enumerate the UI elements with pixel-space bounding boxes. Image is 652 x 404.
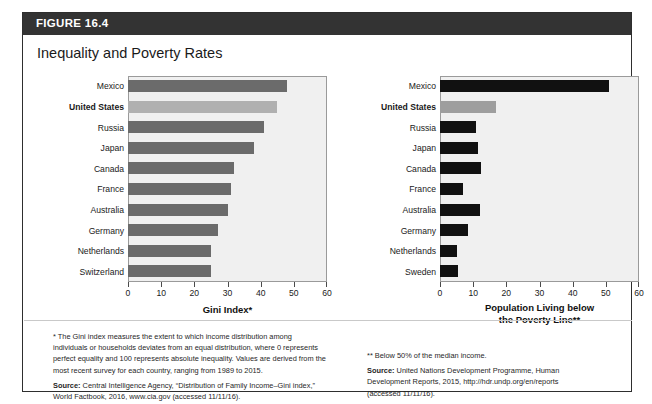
x-axis-tick-labels-gini: 0102030405060 <box>128 288 327 302</box>
category-label: Switzerland <box>40 267 124 277</box>
figure-header-bar: FIGURE 16.4 <box>23 13 631 35</box>
bar-row <box>440 158 639 179</box>
category-labels-poverty: MexicoUnited StatesRussiaJapanCanadaFran… <box>353 76 436 282</box>
bar-row <box>440 76 639 97</box>
category-label: Mexico <box>352 81 436 91</box>
category-label: Mexico <box>40 81 124 91</box>
axis-tick-label: 20 <box>190 288 200 298</box>
axis-tick <box>294 282 295 287</box>
footnote-line: ** Below 50% of the median income. <box>367 350 637 361</box>
bar <box>128 245 211 257</box>
category-label: Japan <box>352 143 436 153</box>
bar <box>128 183 231 195</box>
category-label: Australia <box>352 205 436 215</box>
chart-panel-gini: MexicoUnited StatesRussiaJapanCanadaFran… <box>41 76 336 318</box>
footnote-line: * The Gini index measures the extent to … <box>53 331 333 342</box>
axis-tick <box>473 282 474 287</box>
axis-tick-label: 60 <box>322 288 332 298</box>
chart-panel-poverty: MexicoUnited StatesRussiaJapanCanadaFran… <box>353 76 648 318</box>
category-label: France <box>40 184 124 194</box>
source-line: (accessed 11/11/16). <box>367 388 637 399</box>
bar <box>440 245 457 257</box>
bar <box>440 101 496 113</box>
axis-tick-label: 50 <box>289 288 299 298</box>
axis-tick <box>540 282 541 287</box>
axis-tick <box>261 282 262 287</box>
axis-tick-label: 10 <box>468 288 478 298</box>
bar-row <box>440 138 639 159</box>
bar <box>440 121 476 133</box>
bar-row <box>128 261 327 282</box>
axis-tick-label: 10 <box>156 288 166 298</box>
footnote-poverty: ** Below 50% of the median income. Sourc… <box>367 350 637 399</box>
bar <box>128 204 228 216</box>
bars-gini <box>128 76 327 282</box>
bars-poverty <box>440 76 639 282</box>
category-label: Japan <box>40 143 124 153</box>
category-label: France <box>352 184 436 194</box>
category-label: Sweden <box>352 267 436 277</box>
footnote-line: most recent survey for each country, ran… <box>53 365 333 376</box>
category-label: Germany <box>352 226 436 236</box>
bar-row <box>440 241 639 262</box>
axis-tick <box>506 282 507 287</box>
bar-row <box>440 200 639 221</box>
bar <box>128 80 287 92</box>
axis-tick <box>194 282 195 287</box>
bar <box>440 204 480 216</box>
bar <box>440 142 478 154</box>
axis-tick-label: 40 <box>568 288 578 298</box>
bar <box>440 224 468 236</box>
bar <box>128 121 264 133</box>
axis-tick-label: 20 <box>502 288 512 298</box>
bar-row <box>128 76 327 97</box>
x-axis-title-poverty: Population Living below the Poverty Line… <box>440 302 639 326</box>
bar-row <box>128 117 327 138</box>
category-label: Russia <box>40 123 124 133</box>
bar <box>440 80 609 92</box>
axis-tick-label: 0 <box>126 288 131 298</box>
source-line: Source: Central Intelligence Agency, “Di… <box>53 380 333 391</box>
figure-root: FIGURE 16.4 Inequality and Poverty Rates… <box>0 0 652 404</box>
category-label: Canada <box>40 164 124 174</box>
source-label: Source: <box>367 366 395 375</box>
footnote-gini: * The Gini index measures the extent to … <box>53 331 333 402</box>
category-label: Canada <box>352 164 436 174</box>
source-line: Development Reports, 2015, http://hdr.un… <box>367 376 637 387</box>
footnote-divider <box>24 320 632 321</box>
axis-tick <box>161 282 162 287</box>
footnote-gini-text: * The Gini index measures the extent to … <box>53 331 333 376</box>
bar <box>440 265 458 277</box>
bar-row <box>440 97 639 118</box>
footnote-line: individuals or households deviates from … <box>53 342 333 353</box>
axis-tick-label: 60 <box>634 288 644 298</box>
category-label: Netherlands <box>352 246 436 256</box>
category-labels-gini: MexicoUnited StatesRussiaJapanCanadaFran… <box>41 76 124 282</box>
bar-row <box>128 138 327 159</box>
footnote-gini-source: Source: Central Intelligence Agency, “Di… <box>53 380 333 402</box>
axis-tick-label: 0 <box>438 288 443 298</box>
axis-tick <box>440 282 441 287</box>
source-line: Source: United Nations Development Progr… <box>367 365 637 376</box>
bar-row <box>128 179 327 200</box>
x-axis-tick-labels-poverty: 0102030405060 <box>440 288 639 302</box>
bar-row <box>440 117 639 138</box>
footnote-poverty-text: ** Below 50% of the median income. <box>367 350 637 361</box>
source-line: World Factbook, 2016, www.cia.gov (acces… <box>53 391 333 402</box>
axis-tick-label: 30 <box>223 288 233 298</box>
axis-tick <box>326 282 327 287</box>
bar <box>128 142 254 154</box>
footnote-poverty-source: Source: United Nations Development Progr… <box>367 365 637 399</box>
bar <box>128 265 211 277</box>
axis-tick <box>573 282 574 287</box>
axis-tick-label: 40 <box>256 288 266 298</box>
bar-row <box>128 220 327 241</box>
bar-row <box>128 200 327 221</box>
axis-tick-label: 30 <box>535 288 545 298</box>
axis-tick-label: 50 <box>601 288 611 298</box>
axis-tick <box>606 282 607 287</box>
bar <box>128 162 234 174</box>
bar-row <box>440 179 639 200</box>
bar-row <box>440 220 639 241</box>
category-label: United States <box>40 102 124 112</box>
